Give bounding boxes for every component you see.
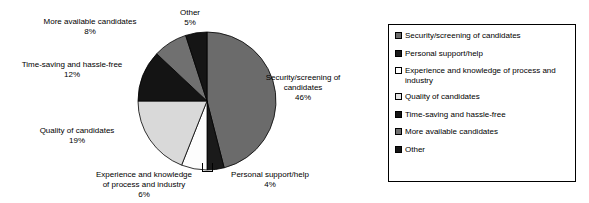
slice-label-security-screening: Security/screening of candidates 46% xyxy=(257,73,349,103)
legend-swatch-icon xyxy=(395,111,402,118)
slice-label-personal-pct: 4% xyxy=(215,180,325,190)
legend-item-more-available-candidates[interactable]: More available candidates xyxy=(395,127,569,137)
slice-label-other: Other 5% xyxy=(168,8,212,28)
leader-line-personal-foot xyxy=(206,171,213,172)
slice-label-quality-text: Quality of candidates xyxy=(40,126,115,135)
legend-item-time-saving[interactable]: Time-saving and hassle-free xyxy=(395,110,569,120)
slice-label-security-pct: 46% xyxy=(257,93,349,103)
slice-label-personal-text: Personal support/help xyxy=(231,170,309,179)
pie-plot-area: Other 5% More available candidates 8% Ti… xyxy=(0,0,360,203)
legend-item-experience-knowledge[interactable]: Experience and knowledge of process and … xyxy=(395,66,569,85)
legend-item-label: Personal support/help xyxy=(405,49,483,59)
legend-swatch-icon xyxy=(395,128,402,135)
legend-item-label: Security/screening of candidates xyxy=(405,31,521,41)
slice-label-more-available-candidates: More available candidates 8% xyxy=(30,17,150,37)
legend-item-label: Experience and knowledge of process and … xyxy=(405,66,569,85)
pie-chart-figure: Other 5% More available candidates 8% Ti… xyxy=(0,0,589,203)
legend-swatch-icon xyxy=(395,146,402,153)
slice-label-more-text: More available candidates xyxy=(44,17,137,26)
slice-label-experience-pct: 6% xyxy=(85,190,203,200)
slice-label-other-text: Other xyxy=(180,8,200,17)
slice-label-personal-support: Personal support/help 4% xyxy=(215,170,325,190)
legend-swatch-icon xyxy=(395,93,402,100)
slice-label-other-pct: 5% xyxy=(168,18,212,28)
slice-label-quality-of-candidates: Quality of candidates 19% xyxy=(18,126,136,146)
slice-label-quality-pct: 19% xyxy=(18,136,136,146)
slice-label-time-pct: 12% xyxy=(8,70,136,80)
slice-label-experience-line2: of process and industry xyxy=(85,180,203,190)
legend-item-label: More available candidates xyxy=(405,127,498,137)
legend-swatch-icon xyxy=(395,32,402,39)
legend-item-label: Other xyxy=(405,145,425,155)
legend-swatch-icon xyxy=(395,50,402,57)
slice-label-experience-line1: Experience and knowledge xyxy=(96,170,192,179)
chart-legend: Security/screening of candidates Persona… xyxy=(388,24,576,182)
slice-label-more-pct: 8% xyxy=(30,27,150,37)
legend-item-personal-support[interactable]: Personal support/help xyxy=(395,49,569,59)
slice-label-experience-knowledge: Experience and knowledge of process and … xyxy=(85,170,203,200)
legend-swatch-icon xyxy=(395,67,402,74)
legend-item-label: Time-saving and hassle-free xyxy=(405,110,506,120)
pie-slices xyxy=(138,32,276,170)
legend-item-security-screening[interactable]: Security/screening of candidates xyxy=(395,31,569,41)
slice-label-time-text: Time-saving and hassle-free xyxy=(22,60,123,69)
slice-label-security-line2: candidates xyxy=(257,83,349,93)
slice-label-time-saving: Time-saving and hassle-free 12% xyxy=(8,60,136,80)
legend-item-label: Quality of candidates xyxy=(405,92,480,102)
slice-label-security-line1: Security/screening of xyxy=(266,73,341,82)
legend-item-other[interactable]: Other xyxy=(395,145,569,155)
legend-item-quality-of-candidates[interactable]: Quality of candidates xyxy=(395,92,569,102)
